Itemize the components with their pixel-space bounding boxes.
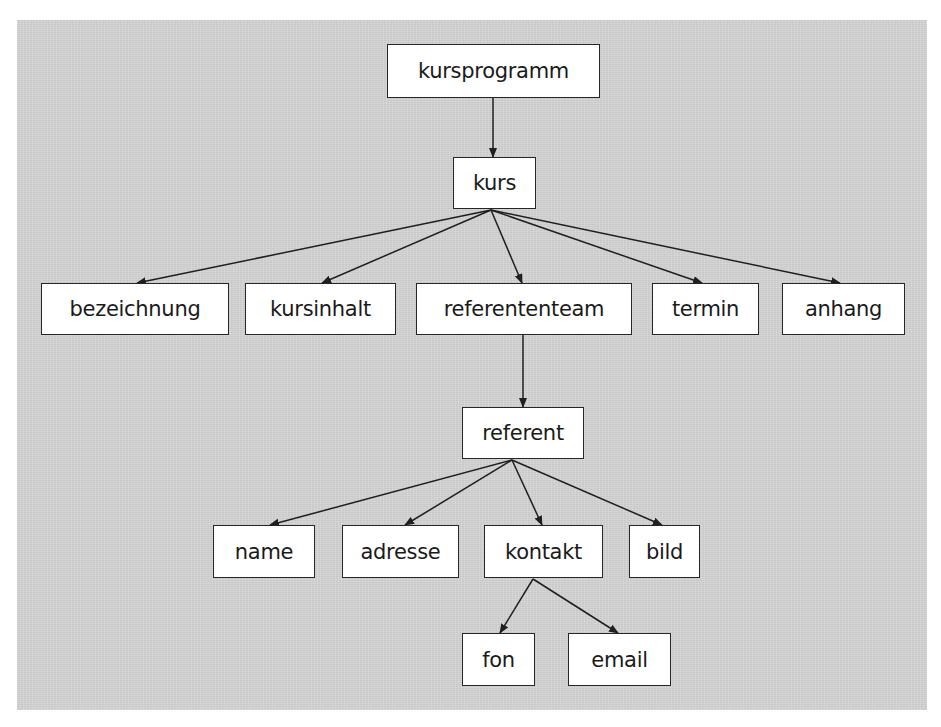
node-label: adresse xyxy=(361,540,441,564)
node-referententeam: referententeam xyxy=(416,283,632,335)
node-label: bezeichnung xyxy=(70,297,201,321)
node-label: referententeam xyxy=(444,297,605,321)
node-label: email xyxy=(591,648,647,672)
node-anhang: anhang xyxy=(782,283,905,335)
node-bild: bild xyxy=(629,525,700,578)
node-label: kursprogramm xyxy=(418,59,569,83)
node-label: kursinhalt xyxy=(270,297,371,321)
node-fon: fon xyxy=(462,633,535,686)
node-label: kurs xyxy=(473,171,516,195)
node-name: name xyxy=(213,525,315,578)
node-referent: referent xyxy=(462,407,584,459)
node-kursinhalt: kursinhalt xyxy=(245,283,396,335)
node-label: fon xyxy=(482,648,515,672)
node-kurs: kurs xyxy=(453,157,536,209)
node-kursprogramm: kursprogramm xyxy=(387,44,600,98)
node-kontakt: kontakt xyxy=(484,525,603,578)
node-termin: termin xyxy=(652,283,759,335)
node-label: anhang xyxy=(805,297,882,321)
node-bezeichnung: bezeichnung xyxy=(41,283,229,335)
node-label: kontakt xyxy=(505,540,582,564)
node-label: termin xyxy=(672,297,739,321)
node-label: bild xyxy=(646,540,683,564)
node-adresse: adresse xyxy=(342,525,459,578)
diagram-background xyxy=(17,20,927,710)
node-label: name xyxy=(235,540,293,564)
node-email: email xyxy=(568,633,671,686)
node-label: referent xyxy=(482,421,564,445)
